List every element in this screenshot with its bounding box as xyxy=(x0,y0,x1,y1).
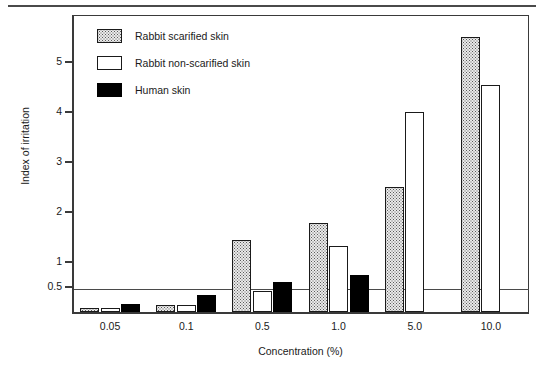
y-axis-line xyxy=(72,15,74,313)
chart-legend: Rabbit scarified skinRabbit non-scarifie… xyxy=(97,24,250,105)
y-tick-label: 2 xyxy=(56,206,62,217)
chart-figure: 0.512345 0.050.10.51.05.010.0 Index of i… xyxy=(0,0,544,371)
bar xyxy=(385,187,404,312)
y-tick-label: 4 xyxy=(56,106,62,117)
y-tick-mark xyxy=(65,161,73,162)
y-tick-label: 5 xyxy=(56,56,62,67)
y-tick-mark xyxy=(65,211,73,212)
x-tick-label: 0.5 xyxy=(222,321,302,332)
x-tick-label: 1.0 xyxy=(299,321,379,332)
legend-item: Human skin xyxy=(97,78,250,102)
y-axis-title: Index of irritation xyxy=(19,66,31,226)
legend-swatch-dotted xyxy=(97,29,122,43)
legend-item-label: Rabbit non-scarified skin xyxy=(135,57,250,69)
y-tick-label: 0.5 xyxy=(47,281,62,292)
bar xyxy=(329,246,348,313)
top-divider-rule xyxy=(8,5,536,7)
bar xyxy=(80,308,99,312)
y-tick-mark xyxy=(65,61,73,62)
bar xyxy=(461,37,480,312)
legend-item: Rabbit non-scarified skin xyxy=(97,51,250,75)
y-tick-mark xyxy=(65,261,73,262)
bar xyxy=(481,85,500,313)
bar xyxy=(101,308,120,312)
legend-item-label: Rabbit scarified skin xyxy=(135,30,229,42)
bar xyxy=(350,275,369,313)
bar xyxy=(197,295,216,313)
bar xyxy=(156,305,175,312)
y-tick-label: 3 xyxy=(56,156,62,167)
y-tick-mark xyxy=(65,286,73,287)
x-tick-label: 10.0 xyxy=(451,321,531,332)
bar xyxy=(253,291,272,313)
x-tick-label: 0.05 xyxy=(70,321,150,332)
bar xyxy=(309,223,328,312)
bar xyxy=(177,305,196,312)
x-axis-line xyxy=(72,312,529,314)
legend-swatch-black xyxy=(97,83,122,97)
bar xyxy=(232,240,251,313)
legend-item-label: Human skin xyxy=(135,84,190,96)
legend-item: Rabbit scarified skin xyxy=(97,24,250,48)
legend-swatch-white xyxy=(97,56,122,70)
bar xyxy=(273,282,292,312)
x-tick-label: 0.1 xyxy=(146,321,226,332)
y-tick-mark xyxy=(65,111,73,112)
y-tick-label: 1 xyxy=(56,256,62,267)
bar xyxy=(405,112,424,312)
x-tick-label: 5.0 xyxy=(375,321,455,332)
x-axis-title: Concentration (%) xyxy=(72,345,529,357)
bar xyxy=(121,304,140,312)
